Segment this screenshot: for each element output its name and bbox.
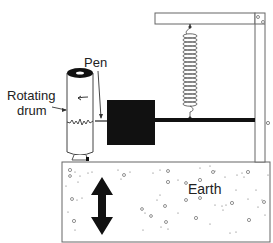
drum-label-line1: Rotating <box>7 89 55 102</box>
frame <box>155 13 270 162</box>
spring <box>183 24 197 119</box>
seismograph-diagram <box>0 0 273 243</box>
mass-block <box>107 100 155 145</box>
rotating-drum <box>67 68 93 161</box>
earth-label: Earth <box>188 182 221 196</box>
pen-pointer <box>98 71 101 118</box>
earth-block <box>62 162 270 242</box>
pen-label: Pen <box>84 56 107 69</box>
horizontal-rod <box>150 118 255 122</box>
drum-label-line2: drum <box>17 104 47 117</box>
